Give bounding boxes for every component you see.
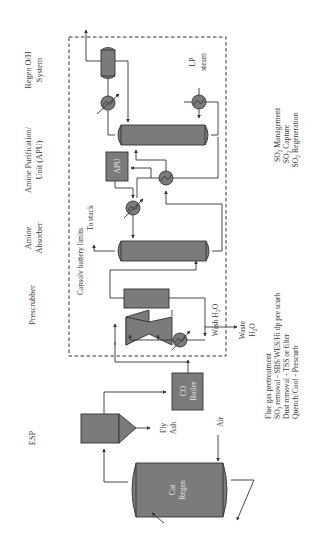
battery-limits-label: Cansolv battery limits [76, 228, 85, 295]
to-stack-arrow [94, 245, 115, 251]
pretreatment-note-4: Quench/Cool - Prescurb [291, 345, 300, 419]
pretreatment-notes: Flue gas pretreatment SO3 removal - SBS/… [264, 292, 300, 419]
wash-water-label: Wash H2O [211, 303, 221, 336]
cat-regen-label-1: Cat [168, 484, 177, 495]
so2-note-3: SO2 Regeneration [291, 112, 301, 167]
co-boiler: CO Boiler [172, 373, 203, 410]
section-headers: ESP Prescrubber Amine Absorber Amine Pur… [24, 51, 44, 445]
apu-unit: APU [106, 152, 128, 181]
apu-label: APU [113, 158, 122, 174]
cat-regen-label-2: Regen [178, 480, 187, 500]
reflux-return [115, 61, 128, 122]
reboiler-loop [206, 102, 218, 135]
header-amine-absorber-2: Absorber [35, 222, 44, 253]
slip-to-apu [131, 168, 151, 178]
apu-to-cooler [115, 181, 133, 198]
catalyst-out-arrow [231, 480, 254, 520]
co-boiler-label-1: CO [179, 385, 188, 396]
header-esp: ESP [28, 430, 37, 445]
waste-label-2: H2O [248, 323, 258, 337]
wash-water-line [169, 298, 205, 336]
regenerator-column [118, 125, 208, 145]
lp-steam-label-2: steam [199, 53, 208, 71]
air-label: Air [216, 416, 225, 427]
cat-regen-vessel: Cat Regen [132, 463, 227, 517]
header-regen-2: System [35, 57, 44, 82]
flue-gas-to-esp [104, 449, 128, 482]
to-stack-label: To stack [86, 205, 95, 231]
prescrubber-vessel [124, 289, 169, 308]
lp-steam-label-1: LP [188, 58, 197, 67]
so2-notes: SO2 Management SO2 Capture SO2 Regenerat… [273, 107, 301, 167]
so2-product-arrow [86, 30, 101, 61]
header-apu-1: Amine Purification/ [24, 126, 33, 193]
header-prescrubber: Prescrubber [28, 285, 37, 325]
pretreatment-note-3: Dust removal - TSS or filter [282, 333, 291, 419]
co-boiler-label-2: Boiler [189, 381, 198, 400]
waste-label-1: Waste [238, 320, 247, 339]
fly-ash-label-2: Ash [169, 422, 178, 434]
header-apu-2: Unit (APU) [35, 140, 44, 179]
header-amine-absorber-1: Amine [24, 226, 33, 249]
header-regen-1: Regen O/H [24, 51, 33, 89]
reflux-drum [101, 48, 115, 79]
lean-from-exchanger [137, 178, 159, 198]
process-flow-diagram: ESP Prescrubber Amine Absorber Amine Pur… [0, 0, 323, 559]
regen-overhead-line [108, 110, 115, 135]
esp-unit [81, 414, 136, 443]
amine-absorber [118, 241, 209, 261]
esp-to-co-boiler [104, 392, 166, 414]
waste-water-arrow [205, 326, 237, 327]
fly-ash-label-1: Fly [159, 423, 168, 433]
pretreatment-note-1: Flue gas pretreatment [264, 352, 273, 419]
